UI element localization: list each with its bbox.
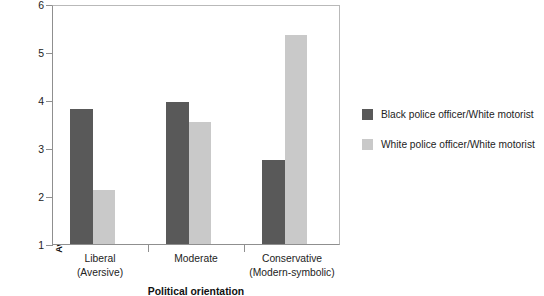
legend-swatch-icon [362, 139, 373, 150]
y-tick-label: 3 [28, 144, 44, 154]
x-category-label-line: Conservative [232, 252, 352, 266]
bar [70, 109, 93, 244]
y-tick-label: 4 [28, 96, 44, 106]
bar [262, 160, 285, 244]
y-tick-label: 6 [28, 0, 44, 10]
y-tick-label: 1 [28, 240, 44, 250]
bar-chart-figure: Average rating of extent to which office… [0, 0, 544, 296]
y-tick-mark [46, 245, 53, 246]
x-category-label-line: (Aversive) [40, 266, 160, 280]
legend-item: White police officer/White motorist [362, 138, 535, 150]
x-axis-title: Political orientation [52, 286, 340, 296]
x-category-label: Conservative(Modern-symbolic) [232, 252, 352, 279]
legend-label: White police officer/White motorist [381, 139, 535, 150]
y-tick-label: 2 [28, 192, 44, 202]
y-tick-label: 5 [28, 48, 44, 58]
legend-swatch-icon [362, 109, 373, 120]
legend-item: Black police officer/White motorist [362, 108, 535, 120]
chart-legend: Black police officer/White motoristWhite… [362, 108, 535, 168]
x-category-label-line: (Modern-symbolic) [232, 266, 352, 280]
x-tick-mark [244, 245, 245, 252]
bar [285, 35, 308, 244]
plot-area [52, 5, 340, 245]
x-tick-mark [148, 245, 149, 252]
legend-label: Black police officer/White motorist [381, 109, 534, 120]
bar [93, 190, 116, 244]
bar [189, 122, 212, 244]
bar [166, 102, 189, 244]
